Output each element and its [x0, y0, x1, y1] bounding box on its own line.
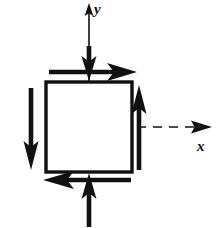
- stress-element-svg: y x: [0, 0, 223, 228]
- x-axis-label: x: [196, 138, 205, 154]
- x-axis-arrowhead-icon: [191, 121, 212, 134]
- figure-canvas: y x: [0, 0, 223, 228]
- left-edge-shear-arrow-down: [24, 88, 39, 170]
- stress-element-square: [46, 82, 132, 172]
- top-normal-compression-arrow-down: [82, 46, 97, 81]
- y-axis-label: y: [92, 1, 101, 17]
